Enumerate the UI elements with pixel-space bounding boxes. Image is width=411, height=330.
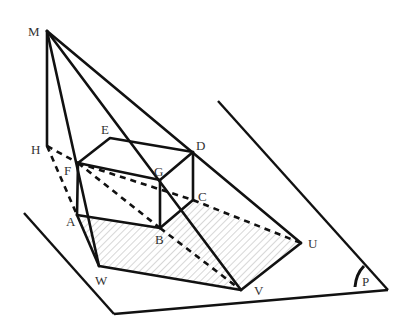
label-w: W <box>95 273 108 288</box>
label-c: C <box>198 189 207 204</box>
label-h: H <box>31 142 40 157</box>
label-f: F <box>64 163 71 178</box>
label-a: A <box>66 214 76 229</box>
label-m: M <box>28 24 40 39</box>
label-g: G <box>154 164 163 179</box>
box <box>77 138 193 228</box>
label-e: E <box>101 122 109 137</box>
label-b: B <box>155 232 164 247</box>
geometry-diagram: M H E D F G C A B W V U P <box>0 0 411 330</box>
label-v: V <box>254 283 264 298</box>
label-d: D <box>196 138 205 153</box>
label-p: P <box>362 274 369 289</box>
label-u: U <box>308 236 318 251</box>
